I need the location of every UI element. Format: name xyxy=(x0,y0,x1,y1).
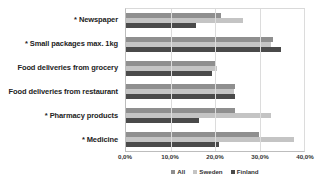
legend-swatch-icon xyxy=(171,170,175,174)
plot-area xyxy=(125,8,305,152)
legend-label: All xyxy=(177,168,185,175)
gridline xyxy=(215,9,216,151)
bar-finland xyxy=(126,118,199,123)
legend-item-finland[interactable]: Finland xyxy=(231,168,259,175)
category-label: * Newspaper xyxy=(0,8,122,32)
gridline xyxy=(171,9,172,151)
bar-finland xyxy=(126,94,235,99)
bar-finland xyxy=(126,23,196,28)
legend-swatch-icon xyxy=(193,170,197,174)
legend-item-sweden[interactable]: Sweden xyxy=(193,168,222,175)
legend-swatch-icon xyxy=(231,170,235,174)
category-label: * Small packages max. 1kg xyxy=(0,32,122,56)
axis-tick-label: 40,0% xyxy=(296,153,314,160)
gridline xyxy=(304,9,305,151)
category-axis-labels: * Newspaper* Small packages max. 1kgFood… xyxy=(0,8,122,152)
value-axis: 0,0%10,0%20,0%30,0%40,0% xyxy=(125,153,305,165)
chart-legend: AllSwedenFinland xyxy=(125,168,305,175)
axis-tick-label: 10,0% xyxy=(161,153,179,160)
axis-tick-label: 0,0% xyxy=(118,153,132,160)
legend-label: Sweden xyxy=(199,168,222,175)
plot-wrapper: * Newspaper* Small packages max. 1kgFood… xyxy=(0,0,319,160)
category-label: Food deliveries from grocery xyxy=(0,56,122,80)
legend-label: Finland xyxy=(237,168,259,175)
category-label: * Medicine xyxy=(0,128,122,152)
legend-item-all[interactable]: All xyxy=(171,168,185,175)
bar-chart: * Newspaper* Small packages max. 1kgFood… xyxy=(0,0,319,186)
category-label: * Pharmacy products xyxy=(0,104,122,128)
axis-tick-label: 30,0% xyxy=(251,153,269,160)
axis-tick-label: 20,0% xyxy=(206,153,224,160)
bar-finland xyxy=(126,71,212,76)
bar-finland xyxy=(126,47,281,52)
bar-finland xyxy=(126,142,219,147)
category-label: Food deliveries from restaurant xyxy=(0,80,122,104)
gridline xyxy=(260,9,261,151)
